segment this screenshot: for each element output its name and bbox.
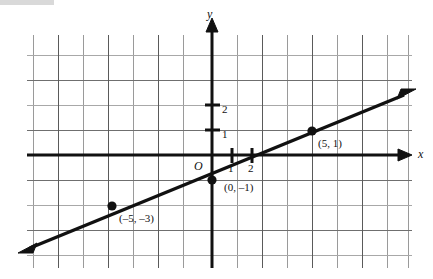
figure-canvas: y x O 2 1 1 2 (0, –1) (–5, –3) (5, 1) bbox=[0, 0, 433, 279]
marker-neg5-neg3 bbox=[107, 201, 116, 210]
line-arrowhead-lower-left bbox=[18, 243, 37, 253]
point-label-neg5-neg3: (–5, –3) bbox=[119, 213, 154, 224]
coordinate-plane-graphic bbox=[0, 0, 433, 279]
marker-0-neg1 bbox=[207, 175, 216, 184]
x-axis-arrowhead bbox=[398, 149, 412, 161]
line-segment bbox=[30, 95, 404, 248]
y-tick-label-2: 2 bbox=[222, 104, 228, 115]
line-arrowhead-upper-right bbox=[397, 89, 416, 99]
plotted-line bbox=[18, 89, 416, 253]
marker-5-1 bbox=[307, 126, 316, 135]
point-label-5-1: (5, 1) bbox=[318, 138, 342, 149]
grid-lines bbox=[27, 35, 412, 268]
origin-label: O bbox=[194, 160, 203, 172]
point-label-0-neg1: (0, –1) bbox=[224, 182, 253, 193]
y-axis-label: y bbox=[207, 8, 212, 20]
x-tick-label-1: 1 bbox=[228, 163, 234, 174]
y-tick-label-1: 1 bbox=[222, 129, 228, 140]
x-axis-label: x bbox=[418, 148, 423, 160]
x-tick-label-2: 2 bbox=[248, 163, 254, 174]
